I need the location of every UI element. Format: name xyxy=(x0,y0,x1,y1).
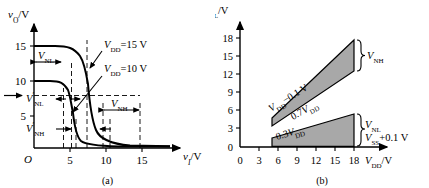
x-axis-label-a-unit: /V xyxy=(190,150,201,162)
panel-b-caption: (b) xyxy=(215,175,429,186)
x-tick-b-6: 6 xyxy=(275,155,280,166)
y-tick-b-3: 3 xyxy=(228,123,233,134)
x-tick-a-5: 5 xyxy=(67,154,73,166)
chart-a-svg: 5 10 15 5 10 15 O vO/V vI/V xyxy=(0,0,215,188)
origin-label-a: O xyxy=(24,153,32,165)
vnh-prime-label-a: V′NH xyxy=(26,121,44,139)
y-tick-b-18: 18 xyxy=(223,33,234,44)
y-tick-a-10: 10 xyxy=(15,75,27,87)
x-tick-b-18: 18 xyxy=(349,155,360,166)
y-tick-b-6: 6 xyxy=(228,105,233,116)
x-tick-b-0: 0 xyxy=(237,155,242,166)
vnh-span-a: VNH xyxy=(104,98,139,113)
x-tick-b-9: 9 xyxy=(294,155,299,166)
vnl-brace xyxy=(357,114,365,146)
vnl-prime-label-a: V′NL xyxy=(26,91,44,109)
chart-b-svg: 0 3 6 9 12 15 18 0 3 6 9 12 15 18 VNH,VN… xyxy=(215,0,429,188)
y-tick-b-0: 0 xyxy=(228,142,233,153)
vdd10-label: VDD=10 V xyxy=(104,63,147,78)
y-axis-label-a-unit: /V xyxy=(18,8,29,20)
x-axis-label-b-unit: /V xyxy=(382,155,393,166)
vdd15-label: VDD=15 V xyxy=(104,39,147,54)
y-tick-b-12: 12 xyxy=(223,69,234,80)
x-tick-b-15: 15 xyxy=(330,155,341,166)
y-tick-a-15: 15 xyxy=(15,40,27,52)
panel-a-caption: (a) xyxy=(0,175,215,186)
x-tick-a-10: 10 xyxy=(101,154,113,166)
panel-a: 5 10 15 5 10 15 O vO/V vI/V xyxy=(0,0,215,188)
y-axis-label-b: VNH,VNL/V xyxy=(215,5,229,20)
y-tick-b-15: 15 xyxy=(223,51,234,62)
x-axis-label-a: vI/V xyxy=(183,150,201,167)
curve-vdd15 xyxy=(34,46,170,146)
y-tick-a-5: 5 xyxy=(21,110,27,122)
svg-text:vO/V: vO/V xyxy=(8,8,29,25)
panel-b: 0 3 6 9 12 15 18 0 3 6 9 12 15 18 VNH,VN… xyxy=(215,0,429,188)
dashed-verticals-a xyxy=(64,40,141,148)
y-axis-label-b-unit: /V xyxy=(218,5,229,16)
vss-plus-01-label: VSS+0.1 V xyxy=(365,132,409,147)
y-tick-b-9: 9 xyxy=(228,87,233,98)
x-tick-b-3: 3 xyxy=(256,155,261,166)
x-axis-label-b-sub: DD xyxy=(371,162,381,170)
x-tick-b-12: 12 xyxy=(311,155,322,166)
y-axis-label-a: vO/V xyxy=(8,8,29,25)
svg-text:vI/V: vI/V xyxy=(183,150,201,167)
x-axis-label-b: VDD/V xyxy=(365,155,392,170)
vnh-label-a: VNH xyxy=(111,98,128,113)
vnl-span-a: VNL xyxy=(36,50,61,65)
vnl-label-a: VNL xyxy=(38,50,54,65)
x-tick-a-15: 15 xyxy=(137,154,149,166)
vnh-brace xyxy=(357,40,365,71)
vnh-brace-label: VNH xyxy=(367,50,384,65)
